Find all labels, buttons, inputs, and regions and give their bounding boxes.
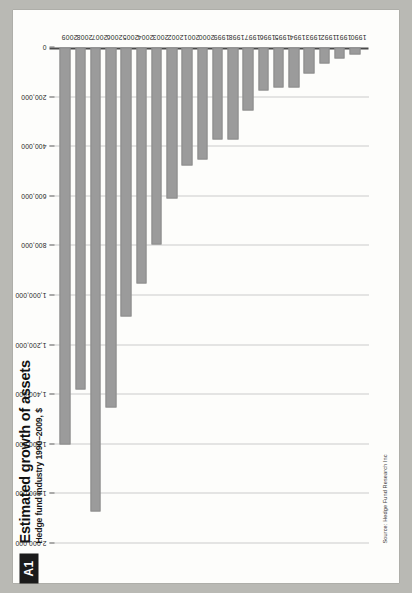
category-label: 1997	[244, 33, 260, 40]
category-label: 2001	[183, 33, 199, 40]
bar	[151, 47, 162, 244]
axis-tick	[49, 542, 54, 543]
bar	[273, 47, 284, 87]
category-label: 1992	[320, 33, 336, 40]
category-label: 2008	[76, 33, 92, 40]
category-label: 1990	[350, 33, 366, 40]
bar	[303, 47, 314, 73]
bar	[288, 47, 299, 87]
axis-tick-label: 1,600,000	[15, 441, 46, 448]
category-label: 1994	[289, 33, 305, 40]
category-label: 2000	[198, 33, 214, 40]
bar	[258, 47, 269, 90]
axis-tick	[49, 393, 54, 394]
bar-row: 1994	[288, 47, 299, 543]
category-label: 2002	[167, 33, 183, 40]
axis-tick	[49, 96, 54, 97]
bar-row: 1999	[212, 47, 223, 543]
bar-row: 1997	[242, 47, 253, 543]
bar-row: 2003	[151, 47, 162, 543]
bar-row: 2002	[166, 47, 177, 543]
bar	[319, 47, 330, 63]
axis-tick	[49, 145, 54, 146]
bar-row: 2005	[120, 47, 131, 543]
bar-row: 1992	[319, 47, 330, 543]
axis-tick-label: 600,000	[21, 193, 46, 200]
figure-source: Source: Hedge Fund Research Inc	[381, 454, 387, 543]
axis-tick	[49, 195, 54, 196]
bar	[120, 47, 131, 316]
bar	[334, 47, 345, 58]
bar	[197, 47, 208, 159]
category-label: 1998	[228, 33, 244, 40]
axis-tick-label: 200,000	[21, 93, 46, 100]
bar-row: 2000	[197, 47, 208, 543]
bar-row: 1993	[303, 47, 314, 543]
figure-badge: A1	[19, 553, 38, 583]
screenshot-page: A1 Estimated growth of assets Hedge fund…	[0, 0, 412, 593]
category-label: 2003	[152, 33, 168, 40]
category-label: 1995	[274, 33, 290, 40]
category-label: 1999	[213, 33, 229, 40]
bar-chart-plot: 2,000,0001,800,0001,600,0001,400,0001,20…	[57, 47, 362, 543]
axis-tick-label: 400,000	[21, 143, 46, 150]
report-page: A1 Estimated growth of assets Hedge fund…	[13, 10, 399, 583]
category-label: 1993	[305, 33, 321, 40]
bar-row: 2004	[136, 47, 147, 543]
axis-tick	[49, 46, 54, 47]
bar	[90, 47, 101, 511]
bar	[181, 47, 192, 165]
axis-tick-label: 0	[42, 44, 46, 51]
category-label: 2005	[122, 33, 138, 40]
bar	[136, 47, 147, 283]
bar-row: 2008	[75, 47, 86, 543]
bar-row: 2007	[90, 47, 101, 543]
axis-tick-label: 1,400,000	[15, 391, 46, 398]
figure-title: Estimated growth of assets	[16, 360, 32, 543]
category-label: 1996	[259, 33, 275, 40]
rotated-figure: A1 Estimated growth of assets Hedge fund…	[13, 10, 399, 583]
axis-tick-label: 800,000	[21, 242, 46, 249]
bar	[75, 47, 86, 389]
bar-row: 1991	[334, 47, 345, 543]
figure-canvas: A1 Estimated growth of assets Hedge fund…	[13, 10, 399, 583]
axis-tick	[49, 344, 54, 345]
axis-tick	[49, 492, 54, 493]
axis-tick-label: 1,800,000	[15, 490, 46, 497]
category-label: 2006	[106, 33, 122, 40]
axis-tick-label: 2,000,000	[15, 540, 46, 547]
bar-rows: 2009200820072006200520042003200220012000…	[57, 47, 362, 543]
axis-tick	[49, 244, 54, 245]
bar-row: 2006	[105, 47, 116, 543]
bar	[105, 47, 116, 407]
bar-row: 1990	[349, 47, 360, 543]
bar-row: 2001	[181, 47, 192, 543]
figure-subtitle: Hedge fund industry 1990–2009, $	[33, 408, 43, 543]
category-label: 2004	[137, 33, 153, 40]
category-label: 2007	[91, 33, 107, 40]
axis-tick-label: 1,200,000	[15, 341, 46, 348]
bar	[166, 47, 177, 198]
bar	[242, 47, 253, 110]
bar-row: 1995	[273, 47, 284, 543]
bar	[212, 47, 223, 139]
bar-row: 1996	[258, 47, 269, 543]
category-label: 1991	[335, 33, 351, 40]
axis-tick	[49, 294, 54, 295]
bar-row: 1998	[227, 47, 238, 543]
bar	[349, 47, 360, 54]
axis-tick	[49, 443, 54, 444]
bar	[59, 47, 70, 444]
category-label: 2009	[61, 33, 77, 40]
bar	[227, 47, 238, 139]
bar-row: 2009	[59, 47, 70, 543]
axis-tick-label: 1,000,000	[15, 292, 46, 299]
